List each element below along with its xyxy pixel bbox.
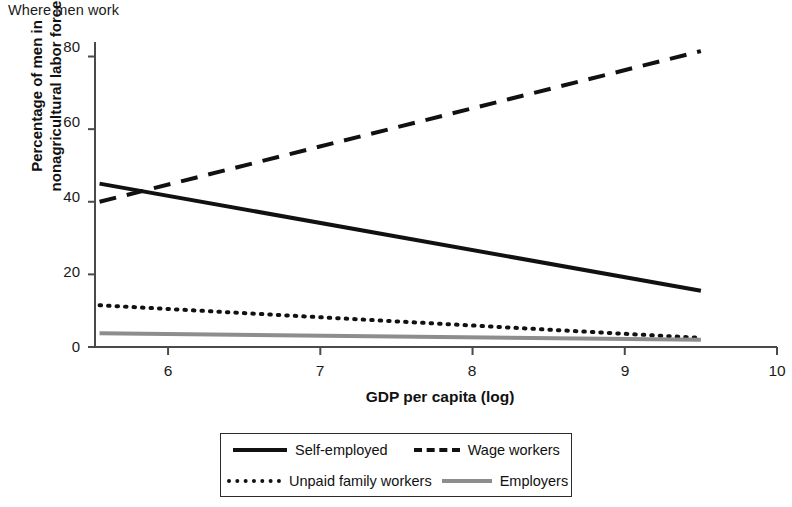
x-tick-9: 9 [605,362,645,380]
y-tick-20: 20 [40,265,80,279]
y-tick-60: 60 [40,115,80,129]
x-axis-label: GDP per capita (log) [95,388,785,406]
series-line-employers [100,333,701,340]
y-tick-labels: 80 60 40 20 0 [36,0,80,360]
legend-swatch-dotted-icon [227,479,281,483]
y-tick-80: 80 [40,40,80,54]
legend-swatch-solid-icon [233,448,287,452]
y-tick-0: 0 [40,340,80,354]
legend-label-unpaid-family-workers: Unpaid family workers [289,473,432,489]
plot-area [0,0,792,507]
x-tick-7: 7 [300,362,340,380]
legend-swatch-gray-icon [442,479,492,483]
x-tick-8: 8 [452,362,492,380]
legend-item-employers[interactable]: Employers [442,473,569,489]
legend-item-unpaid-family-workers[interactable]: Unpaid family workers [227,473,432,489]
data-series-layer [100,51,701,340]
series-line-self-employed [100,184,701,291]
chart-figure: Where men work Percentage of men in nona… [0,0,792,507]
axis-spines [88,42,777,355]
series-line-unpaid-family-workers [100,305,701,338]
legend-label-wage-workers: Wage workers [468,442,560,458]
x-tick-6: 6 [148,362,188,380]
legend-item-self-employed[interactable]: Self-employed [233,442,388,458]
x-tick-10: 10 [757,362,792,380]
series-line-wage-workers [100,51,701,202]
legend-label-self-employed: Self-employed [295,442,388,458]
legend-item-wage-workers[interactable]: Wage workers [414,442,560,458]
legend-swatch-dashed-icon [414,448,460,452]
y-tick-40: 40 [40,190,80,204]
legend-label-employers: Employers [500,473,569,489]
chart-legend: Self-employed Wage workers Unpaid family… [220,433,572,497]
